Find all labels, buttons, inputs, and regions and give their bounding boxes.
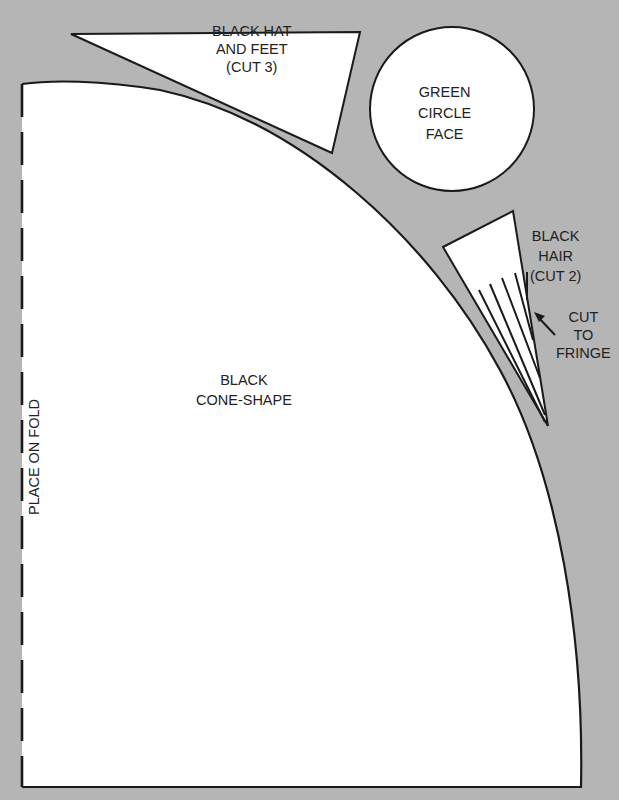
label-line: CONE-SHAPE [196,390,292,410]
label-line: BLACK [196,370,292,390]
label-line: AND FEET [212,40,292,58]
label-line: TO [556,326,611,344]
hair-label: BLACK HAIR (CUT 2) [530,226,581,286]
face-label: GREEN CIRCLE FACE [418,82,471,145]
label-line: CIRCLE [418,103,471,124]
fringe-note: CUT TO FRINGE [556,308,611,362]
fold-label: PLACE ON FOLD [26,399,42,515]
label-line: (CUT 3) [212,58,292,76]
label-line: FACE [418,124,471,145]
label-line: HAIR [530,246,581,266]
cone-label: BLACK CONE-SHAPE [196,370,292,410]
hat-feet-label: BLACK HAT AND FEET (CUT 3) [212,22,292,76]
cone-shape-piece [22,82,581,787]
arrow-icon [534,312,555,335]
label-line: GREEN [418,82,471,103]
label-line: FRINGE [556,344,611,362]
label-line: CUT [556,308,611,326]
label-line: BLACK [530,226,581,246]
label-line: BLACK HAT [212,22,292,40]
pattern-diagram [0,0,619,800]
label-line: (CUT 2) [530,266,581,286]
